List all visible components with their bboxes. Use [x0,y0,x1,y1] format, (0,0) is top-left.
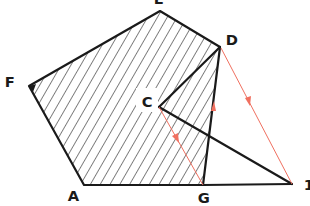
label-h: 1 [304,178,310,192]
label-e: E [154,0,164,6]
hatched-region [29,11,220,185]
label-g: G [198,191,210,205]
label-f: F [5,75,15,89]
label-a: A [68,189,79,203]
geometry-diagram [0,0,310,206]
arrow-down-dh-icon [245,96,251,106]
segment-gh [203,184,292,185]
label-c: C [142,95,153,109]
label-d: D [226,33,238,47]
